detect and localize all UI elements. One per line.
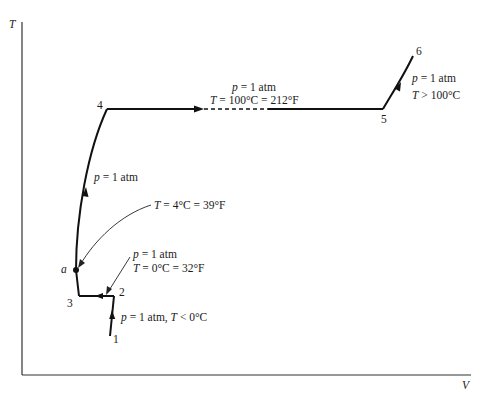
pressure-value: = 1 atm [418, 72, 456, 84]
annotation-boiling-pressure: p = 1 atm [232, 82, 276, 94]
point-3-label: 3 [67, 298, 73, 310]
segment-3-a-4 [76, 109, 107, 296]
annotation-vapor-temperature: T > 100°C [412, 90, 460, 102]
annotation-melting-pressure: p = 1 atm [133, 249, 177, 261]
point-5-label: 5 [381, 114, 387, 126]
point-4-label: 4 [97, 100, 103, 112]
x-axis-label: V [462, 380, 469, 392]
temperature-value: = 100°C = 212°F [216, 94, 298, 106]
annotation-vapor-pressure: p = 1 atm [412, 73, 456, 85]
annotation-ice-heating: p = 1 atm, T < 0°C [121, 312, 207, 324]
temperature-value: > 100°C [418, 89, 460, 101]
annotation-boiling-temperature: T = 100°C = 212°F [210, 95, 299, 107]
temperature-condition: < 0°C [177, 311, 207, 323]
pressure-value: = 1 atm [238, 81, 276, 93]
pressure-value: = 1 atm [100, 171, 138, 183]
segment-5-6 [383, 56, 413, 109]
y-axis-label: T [9, 19, 15, 31]
arrow-tip-icon [78, 259, 85, 268]
pressure-value: = 1 atm [139, 248, 177, 260]
point-6-label: 6 [416, 46, 422, 58]
annotation-liquid-heating: p = 1 atm [94, 172, 138, 184]
point-1-label: 1 [113, 334, 119, 346]
temperature-value: = 4°C = 39°F [160, 199, 225, 211]
pressure-value: = 1 atm, [127, 311, 171, 323]
phase-diagram [0, 0, 487, 400]
annotation-melting-temperature: T = 0°C = 32°F [133, 263, 204, 275]
arrow-left-icon [95, 293, 103, 299]
arrow-right-icon [194, 106, 204, 113]
point-a-label: a [61, 264, 67, 276]
arrow-up-icon [109, 310, 115, 319]
temperature-value: = 0°C = 32°F [139, 262, 204, 274]
annotation-max-density: T = 4°C = 39°F [154, 200, 225, 212]
point-2-label: 2 [119, 287, 125, 299]
